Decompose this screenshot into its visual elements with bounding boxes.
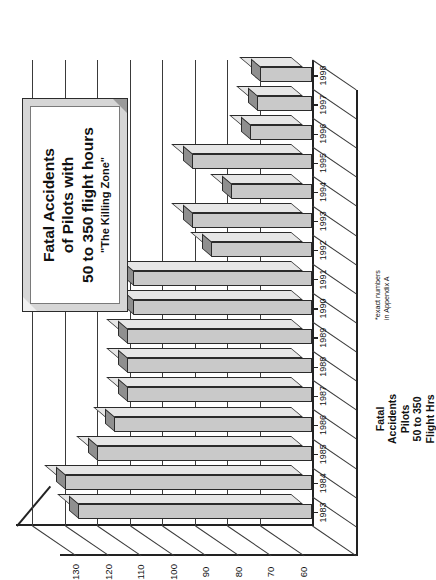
value-axis-title-line: Pilots — [399, 394, 411, 444]
value-axis-title-line: 50 to 350 — [411, 394, 423, 444]
category-tick-mark — [313, 221, 318, 222]
category-tick-label: 1994 — [318, 182, 328, 202]
bar-front-face — [127, 329, 312, 344]
category-tick-label: 1991 — [318, 269, 328, 289]
bar-1996 — [250, 125, 312, 140]
chart-title: Fatal Accidentsof Pilots with50 to 350 f… — [39, 127, 97, 283]
category-tick-mark — [313, 134, 318, 135]
value-axis-front-line — [60, 555, 356, 557]
bar-1994 — [231, 184, 312, 199]
category-tick-label: 1983 — [318, 502, 328, 522]
value-tick-label: 80 — [233, 567, 244, 578]
bar-1990 — [133, 300, 312, 315]
bar-1991 — [133, 271, 312, 286]
category-tick-mark — [313, 105, 318, 106]
bar-front-face — [78, 504, 312, 519]
category-tick-mark — [313, 367, 318, 368]
bar-1997 — [257, 96, 312, 111]
bar-1992 — [211, 242, 312, 257]
category-tick-mark — [313, 396, 318, 397]
bar-front-face — [250, 125, 312, 140]
category-tick-label: 1987 — [318, 386, 328, 406]
category-tick-label: 1988 — [318, 357, 328, 377]
category-tick-label: 1995 — [318, 153, 328, 173]
bar-1995 — [192, 154, 312, 169]
bar-front-face — [211, 242, 312, 257]
bar-front-face — [192, 213, 312, 228]
value-axis-title-line: Accidents — [386, 394, 398, 444]
bar-front-face — [97, 446, 312, 461]
bar-front-face — [127, 358, 312, 373]
bar-side-face — [112, 290, 303, 300]
bar-1993 — [192, 213, 312, 228]
value-axis-title: FatalAccidentsPilots50 to 350Flight Hrs — [374, 394, 436, 444]
category-tick-label: 1993 — [318, 211, 328, 231]
bar-front-face — [231, 184, 312, 199]
category-tick-label: 1997 — [318, 95, 328, 115]
bar-side-face — [76, 436, 303, 446]
category-tick-label: 1984 — [318, 473, 328, 493]
bar-1985 — [97, 446, 312, 461]
bar-1998 — [260, 67, 312, 82]
bar-front-face — [133, 271, 312, 286]
bevel-highlight — [23, 297, 37, 311]
category-tick-mark — [313, 163, 318, 164]
bar-1989 — [127, 329, 312, 344]
value-tick-label: 130 — [70, 564, 81, 580]
chart-title-line: Fatal Accidents — [39, 127, 58, 283]
bar-1988 — [127, 358, 312, 373]
chart-title-inner: Fatal Accidentsof Pilots with50 to 350 f… — [30, 106, 120, 304]
category-tick-mark — [313, 75, 318, 76]
chart-title-box: Fatal Accidentsof Pilots with50 to 350 f… — [22, 98, 128, 312]
value-tick-label: 120 — [103, 564, 114, 580]
category-tick-mark — [313, 425, 318, 426]
bar-front-face — [127, 387, 312, 402]
value-axis-title-line: Flight Hrs — [424, 394, 436, 444]
bar-1984 — [65, 475, 312, 490]
chart-footnote-line: in Appendix A — [383, 270, 392, 320]
value-axis-title-line: Fatal — [374, 394, 386, 444]
bar-side-face — [112, 261, 303, 271]
floor-depth-line — [312, 526, 357, 557]
bar-front-face — [133, 300, 312, 315]
chart-title-line: of Pilots with — [58, 127, 77, 283]
category-tick-label: 1996 — [318, 124, 328, 144]
bar-side-face — [106, 348, 303, 358]
category-tick-label: 1985 — [318, 444, 328, 464]
bar-front-face — [260, 67, 312, 82]
bar-side-face — [44, 465, 303, 475]
value-tick-label: 110 — [135, 564, 146, 579]
bar-1983 — [78, 504, 312, 519]
bar-side-face — [106, 377, 303, 387]
chart-footnote: *exact numbersin Appendix A — [374, 270, 391, 320]
bevel-shadow — [113, 99, 127, 113]
value-tick-label: 70 — [265, 567, 276, 578]
category-tick-label: 1992 — [318, 240, 328, 260]
chart-subtitle: "The Killing Zone" — [99, 157, 111, 253]
bar-side-face — [57, 494, 303, 504]
bar-side-face — [106, 319, 303, 329]
bar-1987 — [127, 387, 312, 402]
category-tick-mark — [313, 308, 318, 309]
bar-front-face — [65, 475, 312, 490]
category-tick-label: 1986 — [318, 415, 328, 435]
bar-front-face — [114, 417, 312, 432]
value-tick-label: 90 — [200, 567, 211, 578]
bar-front-face — [192, 154, 312, 169]
category-tick-mark — [313, 338, 318, 339]
category-tick-mark — [313, 192, 318, 193]
bar-side-face — [239, 57, 303, 67]
bar-front-face — [257, 96, 312, 111]
bar-1986 — [114, 417, 312, 432]
category-tick-label: 1989 — [318, 328, 328, 348]
bar-side-face — [93, 407, 303, 417]
category-tick-mark — [313, 250, 318, 251]
category-tick-label: 1990 — [318, 299, 328, 319]
bar-side-face — [236, 86, 303, 96]
category-tick-mark — [313, 279, 318, 280]
category-tick-label: 1998 — [318, 66, 328, 86]
category-tick-mark — [313, 454, 318, 455]
chart-title-line: 50 to 350 flight hours — [78, 127, 97, 283]
